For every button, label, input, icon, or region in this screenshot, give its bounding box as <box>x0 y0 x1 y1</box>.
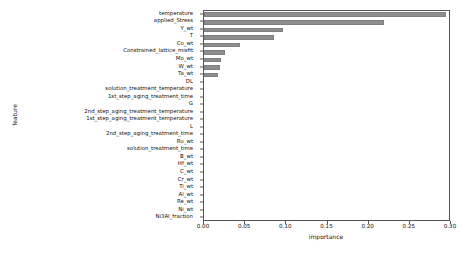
y-tick-label: B_wt <box>180 154 193 159</box>
bar <box>204 65 220 70</box>
x-tick-mark <box>368 221 369 224</box>
y-tick-label: 2nd_step_aging_treatment_time <box>106 132 193 137</box>
y-tick-label: Ta_wt <box>178 71 193 76</box>
bar <box>204 73 218 78</box>
bar <box>204 35 274 40</box>
bar-row <box>204 141 449 146</box>
bar-row <box>204 133 449 138</box>
bar-row <box>204 193 449 198</box>
y-tick-label: Mo_wt <box>176 56 193 61</box>
bar-row <box>204 73 449 78</box>
y-tick-label: G <box>189 101 193 106</box>
bar-row <box>204 201 449 206</box>
bars-layer <box>204 11 449 220</box>
bar-row <box>204 208 449 213</box>
bar-row <box>204 103 449 108</box>
y-tick-label: solution_treatment_temperature <box>105 86 193 91</box>
bar-row <box>204 20 449 25</box>
y-tick-label: Constrained_lattice_misfit <box>123 49 193 54</box>
bar-row <box>204 186 449 191</box>
y-tick-label: Ti_wt <box>179 184 193 189</box>
y-tick-label: temperature <box>159 11 193 16</box>
y-tick-label: 2nd_step_aging_treatment_temperature <box>84 109 193 114</box>
bar-row <box>204 43 449 48</box>
x-axis-title: importance <box>309 233 343 240</box>
bar <box>204 58 221 63</box>
y-tick-label: Al_wt <box>179 192 193 197</box>
bar-row <box>204 95 449 100</box>
bar <box>204 43 240 48</box>
y-tick-label: W_wt <box>178 64 193 69</box>
bar-row <box>204 50 449 55</box>
y-tick-label: Ru_wt <box>177 139 193 144</box>
bar-row <box>204 178 449 183</box>
bar-row <box>204 125 449 130</box>
plot-area <box>203 10 450 221</box>
bar-row <box>204 28 449 33</box>
bar <box>204 12 446 17</box>
x-tick-mark <box>244 221 245 224</box>
y-tick-label: T <box>190 34 193 39</box>
y-tick-label: Y_wt <box>180 26 193 31</box>
bar-row <box>204 110 449 115</box>
x-axis-tick-labels: 0.000.050.100.150.200.250.30 <box>0 223 474 237</box>
y-tick-label: Co_wt <box>177 41 193 46</box>
y-tick-label: applied_Stress <box>154 19 193 24</box>
y-tick-label: Ni_wt <box>178 207 193 212</box>
y-tick-label: Hf_wt <box>178 162 193 167</box>
x-tick-mark <box>327 221 328 224</box>
y-tick-label: Re_wt <box>177 199 193 204</box>
bar <box>204 28 283 33</box>
bar-row <box>204 171 449 176</box>
bar-row <box>204 163 449 168</box>
y-tick-label: solution_treatment_time <box>127 147 193 152</box>
x-tick-mark <box>409 221 410 224</box>
y-tick-label: 1st_step_aging_treatment_temperature <box>86 117 193 122</box>
x-tick-mark <box>285 221 286 224</box>
bar-row <box>204 156 449 161</box>
bar-row <box>204 80 449 85</box>
bar-row <box>204 88 449 93</box>
bar-row <box>204 148 449 153</box>
y-tick-label: L <box>190 124 193 129</box>
bar-row <box>204 12 449 17</box>
y-axis-tick-labels: temperatureapplied_StressY_wtTCo_wtConst… <box>0 10 199 221</box>
y-tick-label: Cr_wt <box>178 177 193 182</box>
bar <box>204 20 384 25</box>
bar-row <box>204 118 449 123</box>
bar-row <box>204 35 449 40</box>
x-tick-mark <box>450 221 451 224</box>
y-tick-label: C_wt <box>180 169 193 174</box>
bar-row <box>204 58 449 63</box>
bar-row <box>204 65 449 70</box>
x-tick-mark <box>203 221 204 224</box>
bar-row <box>204 216 449 221</box>
y-tick-label: DL <box>186 79 193 84</box>
y-tick-label: 1st_step_aging_treatment_time <box>108 94 193 99</box>
y-tick-label: Ni3Al_fraction <box>155 215 193 220</box>
feature-importance-chart: feature temperatureapplied_StressY_wtTCo… <box>0 0 474 263</box>
bar <box>204 50 225 55</box>
